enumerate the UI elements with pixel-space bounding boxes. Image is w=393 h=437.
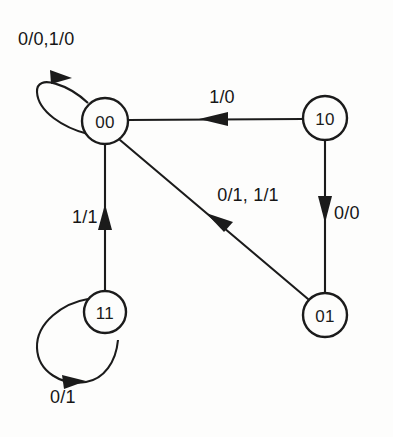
transition-01-to-00-arrowhead [206,213,233,232]
state-node-01-label: 01 [315,307,335,326]
state-node-10[interactable]: 10 [303,96,347,140]
state-node-10-label: 10 [315,110,335,129]
state-node-11-label: 11 [96,304,114,323]
transition-10-to-01-label: 0/0 [334,203,360,223]
state-node-11[interactable]: 11 [84,291,126,333]
transition-01-to-00-label: 0/1, 1/1 [217,185,279,205]
transition-10-to-00-label: 1/0 [209,87,235,107]
transition-11-to-00: 1/1 [72,145,112,291]
state-node-01[interactable]: 01 [303,293,347,337]
transition-10-to-00-arrowhead [199,112,228,126]
state-transition-diagram: 0/0,1/0 1/0 0/0 0/1, 1/1 1/1 [0,0,393,437]
transition-10-to-01: 0/0 [318,140,360,293]
state-diagram-canvas: 0/0,1/0 1/0 0/0 0/1, 1/1 1/1 [0,0,393,437]
transition-00-self-arrowhead [50,70,72,84]
transition-11-to-00-arrowhead [98,204,112,230]
transition-11-self-label: 0/1 [50,387,76,407]
transition-00-self-label: 0/0,1/0 [18,29,74,49]
state-node-00[interactable]: 00 [82,98,128,144]
transition-10-to-00: 1/0 [128,87,303,126]
transition-11-to-00-label: 1/1 [72,207,98,227]
transition-01-to-00: 0/1, 1/1 [120,140,308,299]
state-node-00-label: 00 [95,113,115,132]
transition-10-to-01-arrowhead [318,196,332,223]
